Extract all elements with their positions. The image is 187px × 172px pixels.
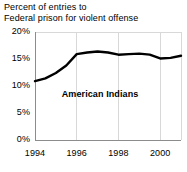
data-series-group	[35, 51, 181, 81]
x-tick-label: 1996	[62, 148, 92, 158]
x-tick-label: 1998	[103, 148, 133, 158]
y-tick-label: 5%	[2, 107, 30, 117]
chart-figure: Percent of entries to Federal prison for…	[0, 0, 187, 172]
series-inline-label: American Indians	[62, 89, 139, 99]
y-tick-label: 10%	[2, 80, 30, 90]
x-tick-label: 2000	[145, 148, 175, 158]
gridlines	[35, 32, 181, 140]
y-tick-label: 20%	[2, 26, 30, 36]
x-tick-label: 1994	[20, 148, 50, 158]
series-line-american-indians	[35, 51, 181, 81]
y-tick-label: 15%	[2, 53, 30, 63]
y-tick-label: 0%	[2, 134, 30, 144]
axis-lines	[35, 32, 181, 140]
